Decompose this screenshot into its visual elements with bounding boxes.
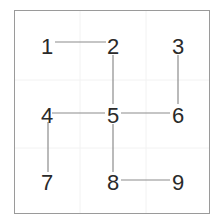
node-9: 9 <box>172 170 184 195</box>
node-4: 4 <box>41 103 53 128</box>
node-2: 2 <box>107 34 119 59</box>
node-3: 3 <box>172 34 184 59</box>
node-1: 1 <box>41 34 53 59</box>
node-5: 5 <box>107 103 119 128</box>
node-6: 6 <box>172 103 184 128</box>
diagram-canvas: 1 2 3 4 5 6 7 8 9 <box>0 0 219 224</box>
node-8: 8 <box>107 170 119 195</box>
node-7: 7 <box>41 170 53 195</box>
